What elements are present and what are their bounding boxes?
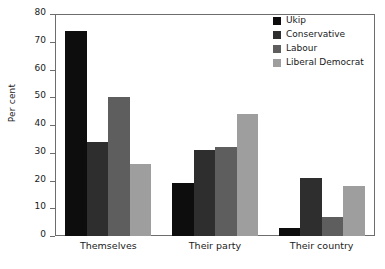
legend: UkipConservativeLabourLiberal Democrat <box>273 15 364 68</box>
y-axis-tick-label: 60 <box>35 63 46 73</box>
bar <box>343 186 365 236</box>
y-axis-tick-label: 10 <box>35 201 46 211</box>
y-axis-tick-label: 50 <box>35 90 46 100</box>
bar <box>322 217 344 236</box>
y-axis-tick-mark <box>50 236 55 237</box>
legend-item: Conservative <box>273 29 364 40</box>
bar <box>108 97 130 236</box>
y-axis-tick-label: 0 <box>40 229 46 239</box>
legend-label: Liberal Democrat <box>286 58 364 67</box>
bar <box>215 147 237 236</box>
y-axis-tick-label: 80 <box>35 7 46 17</box>
bar <box>87 142 109 236</box>
legend-item: Ukip <box>273 15 364 26</box>
x-axis-label: Their party <box>162 240 269 251</box>
legend-label: Conservative <box>286 30 345 39</box>
legend-swatch-icon <box>273 45 281 53</box>
bar <box>300 178 322 236</box>
legend-swatch-icon <box>273 59 281 67</box>
legend-item: Liberal Democrat <box>273 57 364 68</box>
bar <box>279 228 301 236</box>
x-axis-label: Themselves <box>55 240 162 251</box>
legend-label: Labour <box>286 44 317 53</box>
bar <box>172 183 194 236</box>
legend-swatch-icon <box>273 17 281 25</box>
bar <box>237 114 259 236</box>
y-axis-tick-label: 30 <box>35 146 46 156</box>
x-axis-label: Their country <box>268 240 375 251</box>
bar-chart: Per cent 01020304050607080 ThemselvesThe… <box>0 0 385 269</box>
bar <box>130 164 152 236</box>
y-axis-tick-label: 70 <box>35 35 46 45</box>
bar <box>65 31 87 236</box>
legend-item: Labour <box>273 43 364 54</box>
legend-label: Ukip <box>286 16 306 25</box>
y-axis-tick-label: 40 <box>35 118 46 128</box>
y-axis-tick-label: 20 <box>35 174 46 184</box>
bar <box>194 150 216 236</box>
y-axis-title: Per cent <box>7 63 17 143</box>
legend-swatch-icon <box>273 31 281 39</box>
